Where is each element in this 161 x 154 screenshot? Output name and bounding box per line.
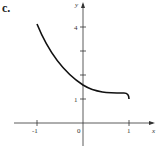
- y-axis-arrow-icon: [81, 2, 85, 8]
- x-tick-label-0: 0: [77, 127, 81, 135]
- x-axis-arrow-icon: [149, 121, 155, 125]
- y-tick-label-4: 4: [74, 24, 78, 32]
- x-tick-label-1: 1: [127, 127, 131, 135]
- chart-canvas: -1 0 1 x 4 1 y: [0, 0, 161, 154]
- x-axis-label: x: [151, 127, 156, 135]
- y-axis-label: y: [74, 1, 79, 9]
- x-tick-label-neg1: -1: [32, 127, 38, 135]
- y-tick-label-1: 1: [74, 96, 78, 104]
